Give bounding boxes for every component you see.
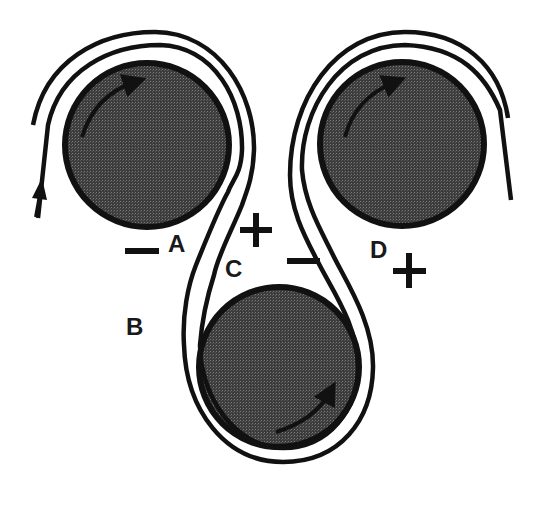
minus-sign-center [287,258,320,264]
label-b: B [126,313,143,340]
plus-sign-near-c [240,213,272,247]
label-c: C [225,255,242,282]
roller-top-right [320,62,484,226]
label-d: D [370,236,387,263]
roller-bottom [199,287,359,447]
roller-top-left [65,63,229,227]
label-a: A [168,230,185,257]
roller-diagram: A B C D [0,0,541,508]
minus-sign-near-a [125,248,159,254]
plus-sign-near-d [393,253,426,288]
